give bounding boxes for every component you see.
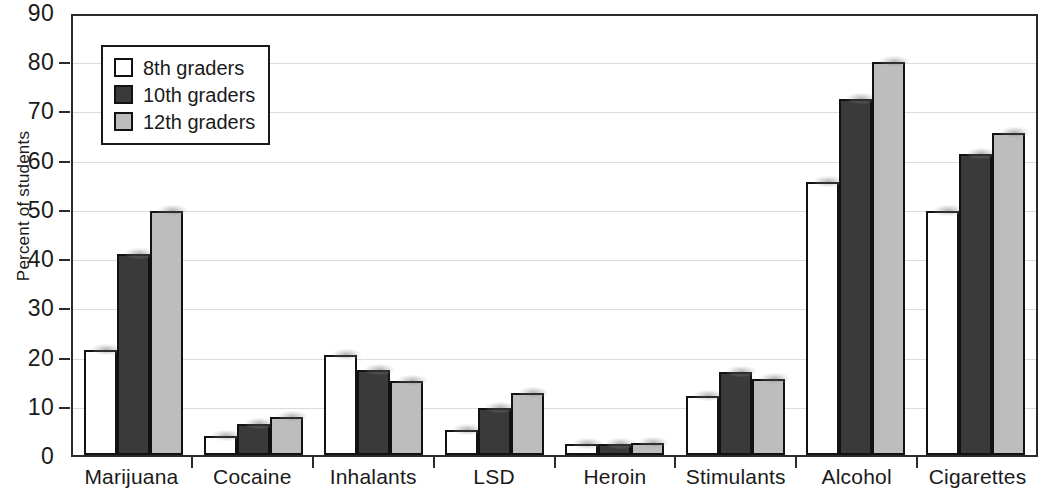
light-gray-square-icon (114, 112, 133, 131)
y-tick-label: 0 (41, 443, 54, 469)
y-tick-mark (59, 111, 70, 113)
legend-item: 12th graders (114, 108, 255, 135)
y-tick-mark (59, 161, 70, 163)
bar-group (555, 16, 675, 455)
x-axis-label: Marijuana (71, 462, 192, 492)
bar (926, 211, 959, 455)
x-axis-label: Cigarettes (917, 462, 1038, 492)
y-tick-label: 30 (28, 295, 54, 321)
legend-item-label: 12th graders (143, 111, 255, 133)
bar (445, 430, 478, 455)
y-tick-label: 70 (28, 98, 54, 124)
x-axis-label: Inhalants (313, 462, 434, 492)
y-tick-label: 80 (28, 49, 54, 75)
y-tick-mark (59, 62, 70, 64)
bar (324, 355, 357, 455)
legend-item: 10th graders (114, 81, 255, 108)
bar (959, 154, 992, 455)
x-axis-label: Stimulants (675, 462, 796, 492)
bar (992, 133, 1025, 455)
bar (357, 370, 390, 455)
bar-group (795, 16, 915, 455)
x-axis-label: LSD (434, 462, 555, 492)
dark-gray-square-icon (114, 85, 133, 104)
y-tick-label: 90 (28, 0, 54, 26)
bar (511, 393, 544, 455)
legend-item-label: 10th graders (143, 84, 255, 106)
bar (237, 424, 270, 455)
bar-group (916, 16, 1036, 455)
bar-group (314, 16, 434, 455)
y-tick-mark (59, 210, 70, 212)
bar (752, 379, 785, 455)
bar (872, 62, 905, 455)
bar (839, 99, 872, 455)
bar (598, 444, 631, 455)
bar (686, 396, 719, 455)
bar (719, 372, 752, 455)
y-tick-label: 20 (28, 345, 54, 371)
white-square-icon (114, 58, 133, 77)
bar (478, 408, 511, 455)
y-tick-label: 60 (28, 148, 54, 174)
bar-chart: Percent of students 9080706050403020100 … (0, 0, 1049, 496)
legend-item: 8th graders (114, 54, 255, 81)
bar (806, 182, 839, 455)
y-tick-mark (59, 259, 70, 261)
y-tick-mark (59, 358, 70, 360)
bar (565, 444, 598, 455)
y-tick-label: 10 (28, 394, 54, 420)
x-axis-label: Alcohol (796, 462, 917, 492)
y-tick-label: 50 (28, 197, 54, 223)
bar (84, 350, 117, 455)
y-tick-mark (59, 308, 70, 310)
bar (631, 443, 664, 455)
y-axis: 9080706050403020100 (0, 0, 71, 496)
y-tick-mark (59, 407, 70, 409)
legend: 8th graders10th graders12th graders (101, 45, 270, 145)
x-axis-label: Cocaine (192, 462, 313, 492)
bar-group (434, 16, 554, 455)
bar-group (675, 16, 795, 455)
bar (270, 417, 303, 455)
x-axis-label: Heroin (555, 462, 676, 492)
legend-item-label: 8th graders (143, 57, 244, 79)
bar (390, 381, 423, 455)
bar (150, 211, 183, 455)
bar (204, 436, 237, 455)
x-axis-labels: MarijuanaCocaineInhalantsLSDHeroinStimul… (71, 462, 1038, 492)
bar (117, 254, 150, 455)
y-tick-label: 40 (28, 246, 54, 272)
